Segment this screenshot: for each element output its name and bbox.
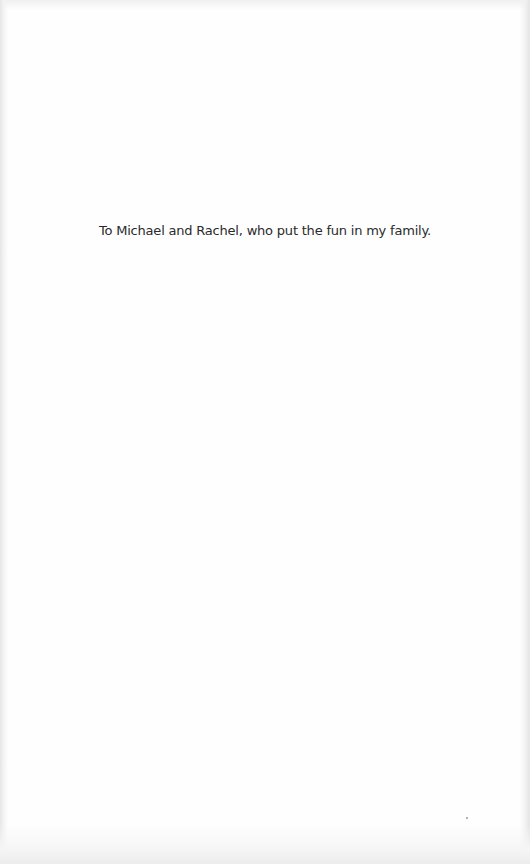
paper-edge-left — [0, 0, 8, 864]
dedication-page: To Michael and Rachel, who put the fun i… — [0, 0, 530, 864]
paper-edge-top — [0, 0, 530, 10]
dedication-text: To Michael and Rachel, who put the fun i… — [0, 222, 530, 240]
paper-edge-bottom — [0, 824, 530, 864]
paper-edge-right — [520, 0, 530, 864]
scan-speck — [466, 817, 468, 819]
